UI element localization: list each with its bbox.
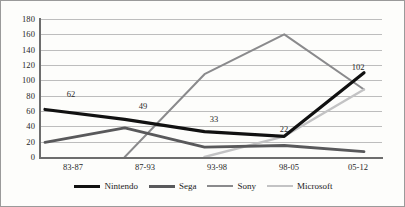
legend-swatch-sega-icon xyxy=(149,185,175,188)
legend-item-sony[interactable]: Sony xyxy=(207,181,256,191)
y-tick-label: 0 xyxy=(1,153,35,162)
data-label-33: 33 xyxy=(210,115,219,124)
series-line-sony xyxy=(125,34,364,157)
x-tick-label: 05-12 xyxy=(348,163,368,172)
y-tick-label: 100 xyxy=(1,76,35,85)
y-axis-labels: 180 160 140 120 100 80 60 40 20 0 xyxy=(1,1,35,207)
x-tick-label: 83-87 xyxy=(63,163,83,172)
y-tick-label: 140 xyxy=(1,46,35,55)
legend-swatch-microsoft-icon xyxy=(267,185,293,187)
chart-legend: Nintendo Sega Sony Microsoft xyxy=(1,181,405,191)
y-tick-label: 160 xyxy=(1,30,35,39)
plot-area xyxy=(39,19,382,157)
data-label-102: 102 xyxy=(352,63,365,72)
y-tick-label: 180 xyxy=(1,15,35,24)
x-tick-label: 98-05 xyxy=(279,163,299,172)
legend-label-microsoft: Microsoft xyxy=(297,181,333,191)
legend-label-sega: Sega xyxy=(179,181,197,191)
y-tick-label: 80 xyxy=(1,92,35,101)
legend-label-sony: Sony xyxy=(237,181,256,191)
data-label-49: 49 xyxy=(139,102,148,111)
chart-figure: 180 160 140 120 100 80 60 40 20 0 83-87 … xyxy=(0,0,405,207)
y-axis-line xyxy=(39,18,41,158)
data-label-22: 22 xyxy=(280,125,289,134)
y-tick-label: 120 xyxy=(1,61,35,70)
legend-item-microsoft[interactable]: Microsoft xyxy=(267,181,333,191)
legend-item-sega[interactable]: Sega xyxy=(149,181,197,191)
y-tick-label: 60 xyxy=(1,107,35,116)
x-tick-label: 87-93 xyxy=(135,163,155,172)
legend-swatch-nintendo-icon xyxy=(74,185,100,188)
series-line-nintendo xyxy=(45,73,364,137)
x-axis-line xyxy=(39,157,383,159)
data-label-62: 62 xyxy=(67,90,76,99)
y-tick-label: 20 xyxy=(1,138,35,147)
legend-item-nintendo[interactable]: Nintendo xyxy=(74,181,138,191)
series-lines xyxy=(39,19,382,157)
y-tick-label: 40 xyxy=(1,122,35,131)
legend-swatch-sony-icon xyxy=(207,185,233,187)
legend-label-nintendo: Nintendo xyxy=(104,181,138,191)
x-tick-label: 93-98 xyxy=(207,163,227,172)
